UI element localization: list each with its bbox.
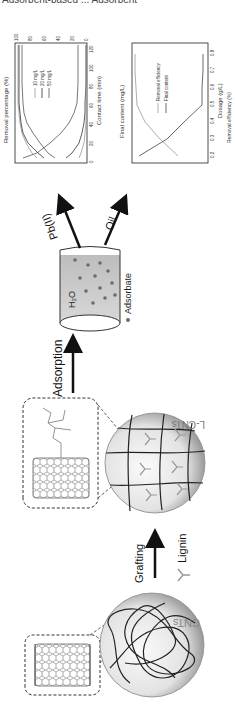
grafting-step: Grafting Lignin: [133, 533, 190, 583]
nanotube-icon: [35, 644, 90, 686]
branch-arrows: Pb(II) Oil: [39, 198, 125, 248]
svg-text:50 mg/L: 50 mg/L: [47, 69, 52, 86]
lignin-grafted-nanotube-icon: [33, 408, 89, 498]
pb-label: Pb(II): [39, 212, 59, 241]
grafting-label: Grafting: [133, 544, 145, 583]
svg-text:Final content: Final content: [164, 74, 169, 101]
svg-text:0.4: 0.4: [210, 117, 215, 124]
pb-right-ticks: 020406080100: [14, 33, 89, 41]
beaker-rim: [60, 315, 120, 331]
rotated-figure: CNTs Grafting Lignin: [0, 0, 235, 723]
adsorbate-legend-dot: [126, 318, 130, 322]
svg-text:0.2: 0.2: [210, 151, 215, 158]
svg-text:0: 0: [84, 38, 89, 41]
pb-x-ticks: 020406080100120: [89, 45, 94, 163]
pb-chart-right-axis-title: Removal percentage (%): [3, 77, 9, 143]
cnts-label: CNTs: [173, 617, 200, 629]
lignin-label: Lignin: [176, 534, 188, 563]
svg-text:0.3: 0.3: [210, 134, 215, 141]
beaker-group: H₂O Adsorbate: [60, 247, 133, 332]
oil-chart: Final content (mg/L) 0.20.30.40.50.60.70…: [119, 43, 232, 163]
svg-text:Removal efficiency: Removal efficiency: [156, 63, 161, 101]
pb-plot-area: [15, 43, 87, 163]
pb-arrow-icon: [60, 198, 80, 248]
svg-text:80: 80: [28, 35, 33, 41]
svg-text:60: 60: [42, 35, 47, 41]
pb-chart: Removal percentage (%) 020406080100120 C…: [3, 33, 102, 163]
oil-x-ticks: 0.20.30.40.50.60.70.8: [210, 49, 215, 158]
svg-text:80: 80: [89, 83, 94, 89]
oil-x-axis-title: Dosage (g/L): [217, 83, 223, 118]
svg-text:10 mg/L: 10 mg/L: [33, 69, 38, 86]
svg-text:0: 0: [89, 160, 94, 163]
svg-text:100: 100: [89, 64, 94, 72]
oil-plot-area: [132, 43, 208, 163]
adsorption-label: Adsorption: [51, 340, 65, 397]
oil-y-axis-title: Removal efficiency (%): [226, 92, 232, 143]
svg-text:60: 60: [89, 102, 94, 108]
svg-text:40: 40: [89, 121, 94, 127]
adsorption-step: Adsorption: [51, 338, 73, 397]
adsorbate-label: Adsorbate: [123, 273, 133, 314]
svg-text:0.8: 0.8: [210, 49, 215, 56]
svg-text:100: 100: [14, 33, 19, 41]
svg-text:20: 20: [70, 35, 75, 41]
svg-text:120: 120: [89, 45, 94, 53]
svg-text:20 mg/L: 20 mg/L: [40, 69, 45, 86]
water-label: H₂O: [67, 291, 77, 308]
svg-text:0.6: 0.6: [210, 83, 215, 90]
lcnts-label: L-CNTs: [172, 419, 205, 430]
svg-text:0.7: 0.7: [210, 66, 215, 73]
svg-text:0.5: 0.5: [210, 100, 215, 107]
oil-chart-right-axis-title: Final content (mg/L): [119, 85, 125, 138]
lcnts-group: L-CNTs: [23, 398, 205, 513]
pb-x-axis-title: Contact time (min): [96, 76, 102, 125]
svg-text:20: 20: [89, 140, 94, 146]
water-body: [60, 255, 120, 323]
svg-text:40: 40: [56, 35, 61, 41]
cnts-group: CNTs: [25, 593, 204, 697]
lignin-icon: [178, 569, 190, 581]
